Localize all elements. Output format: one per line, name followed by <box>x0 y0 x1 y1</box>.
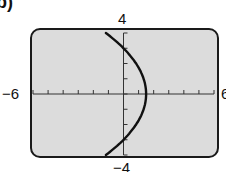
graphing-screen <box>0 0 226 172</box>
